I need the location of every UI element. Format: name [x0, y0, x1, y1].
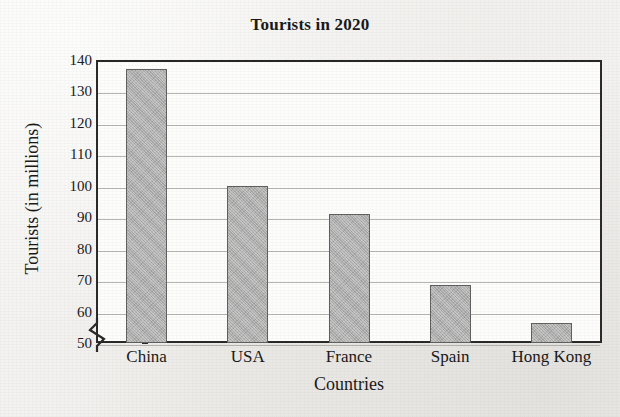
y-axis-tick-labels: 5060708090100110120130140 [52, 60, 92, 343]
y-tick-mark [142, 91, 148, 92]
x-axis-title: Countries [96, 374, 602, 395]
y-tick-mark [142, 280, 148, 281]
y-tick-label: 90 [52, 210, 92, 225]
y-tick-mark [142, 312, 148, 313]
y-tick-mark [142, 123, 148, 124]
y-tick-label: 60 [52, 304, 92, 319]
x-tick-label: Hong Kong [511, 347, 591, 367]
gridline [98, 282, 600, 283]
y-tick-mark [142, 343, 148, 344]
y-tick-label: 70 [52, 273, 92, 288]
gridline [98, 188, 600, 189]
y-tick-mark [142, 60, 148, 61]
gridline [98, 125, 600, 126]
gridline [98, 219, 600, 220]
x-tick-label: China [126, 347, 167, 367]
plot-area [96, 60, 602, 343]
y-tick-label: 100 [52, 178, 92, 193]
gridline [98, 345, 600, 346]
gridline [98, 251, 600, 252]
y-axis-title: Tourists (in millions) [22, 79, 43, 319]
gridline [98, 156, 600, 157]
y-tick-mark [142, 217, 148, 218]
x-tick-label: France [326, 347, 372, 367]
y-tick-label: 80 [52, 241, 92, 256]
x-tick-label: Spain [431, 347, 470, 367]
gridlines [98, 62, 600, 341]
y-tick-label: 130 [52, 84, 92, 99]
scanned-page: Tourists in 2020 Tourists (in millions) … [0, 0, 620, 417]
gridline [98, 93, 600, 94]
y-tick-mark [142, 186, 148, 187]
y-tick-label: 110 [52, 147, 92, 162]
x-tick-label: USA [231, 347, 265, 367]
y-tick-mark [142, 249, 148, 250]
y-tick-mark [142, 154, 148, 155]
x-axis-tick-labels: ChinaUSAFranceSpainHong Kong [96, 347, 602, 371]
gridline [98, 314, 600, 315]
y-tick-label: 140 [52, 53, 92, 68]
y-tick-label: 120 [52, 115, 92, 130]
chart-title: Tourists in 2020 [0, 15, 620, 35]
